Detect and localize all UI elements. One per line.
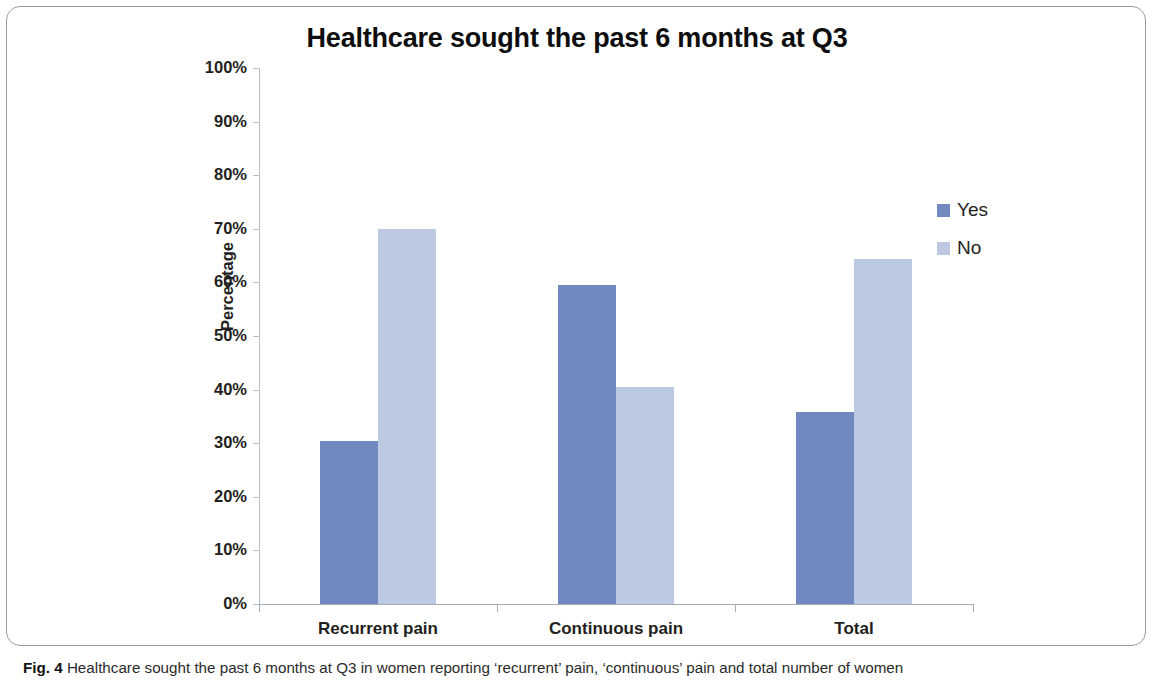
y-axis-tick-label: 70% xyxy=(183,219,247,238)
bar xyxy=(320,441,378,604)
y-axis-tick-label: 20% xyxy=(183,487,247,506)
plot-area xyxy=(259,68,973,604)
y-axis-tick-label: 40% xyxy=(183,380,247,399)
bar xyxy=(616,387,674,604)
legend-label: Yes xyxy=(957,199,988,221)
y-axis-tick-label: 80% xyxy=(183,165,247,184)
legend-item: No xyxy=(937,233,988,263)
y-axis-tick-label: 90% xyxy=(183,112,247,131)
y-axis-tick-label: 100% xyxy=(183,58,247,77)
figure-caption-label: Fig. 4 xyxy=(23,659,63,676)
x-axis-tick xyxy=(973,604,974,612)
legend-swatch-icon xyxy=(937,204,950,217)
x-axis-line xyxy=(259,604,973,605)
x-axis-tick xyxy=(259,604,260,612)
bar xyxy=(796,412,854,604)
y-axis-tick-label: 30% xyxy=(183,433,247,452)
legend: YesNo xyxy=(937,195,988,271)
y-axis-tick-label: 10% xyxy=(183,540,247,559)
chart: Healthcare sought the past 6 months at Q… xyxy=(7,7,1147,647)
figure-frame: Healthcare sought the past 6 months at Q… xyxy=(6,6,1146,646)
legend-item: Yes xyxy=(937,195,988,225)
y-axis-tick-label: 60% xyxy=(183,272,247,291)
bar xyxy=(558,285,616,604)
x-axis-category-label: Total xyxy=(735,619,973,639)
bar xyxy=(378,229,436,604)
figure-caption: Fig. 4 Healthcare sought the past 6 mont… xyxy=(23,659,1153,676)
legend-label: No xyxy=(957,237,981,259)
x-axis-category-label: Continuous pain xyxy=(497,619,735,639)
bar xyxy=(854,259,912,604)
x-axis-tick xyxy=(735,604,736,612)
y-axis-tick-label: 50% xyxy=(183,326,247,345)
legend-swatch-icon xyxy=(937,242,950,255)
y-axis-tick-label: 0% xyxy=(183,594,247,613)
x-axis-tick xyxy=(497,604,498,612)
figure-caption-text: Healthcare sought the past 6 months at Q… xyxy=(63,659,904,676)
x-axis-category-label: Recurrent pain xyxy=(259,619,497,639)
chart-title: Healthcare sought the past 6 months at Q… xyxy=(7,23,1147,54)
